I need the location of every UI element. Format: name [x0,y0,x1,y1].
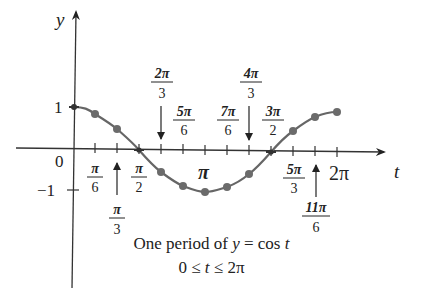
svg-text:7π: 7π [221,104,236,119]
svg-text:π: π [91,161,99,176]
data-point [113,125,121,133]
svg-text:3: 3 [291,181,298,196]
y-tick-label-1: 1 [54,98,63,117]
svg-text:6: 6 [313,220,320,235]
svg-text:6: 6 [181,123,188,138]
y-tick-label-minus-1: −1 [37,181,55,200]
data-point [333,108,341,116]
svg-text:2π: 2π [154,66,170,81]
frac-pi3: π 3 [109,202,125,237]
frac-pi6: π 6 [87,161,103,195]
caption-text: One period of [134,234,233,253]
caption-range-end: ≤ 2π [210,258,245,277]
caption-y: y [232,234,240,253]
svg-text:π: π [113,202,121,217]
svg-text:2: 2 [270,123,277,138]
svg-text:11π: 11π [306,200,327,215]
svg-text:4π: 4π [243,66,259,81]
data-point [179,182,187,190]
data-point [91,110,99,118]
svg-text:5π: 5π [287,162,302,177]
y-axis-label: y [54,9,65,30]
t-axis-label: t [394,161,400,182]
svg-text:3π: 3π [265,104,281,119]
caption-line-2: 0 ≤ t ≤ 2π [0,258,423,278]
origin-label: 0 [55,152,64,171]
data-point [201,188,209,196]
x-axis [16,148,384,152]
data-point [157,168,165,176]
svg-text:5π: 5π [177,104,192,119]
data-point [311,113,319,121]
svg-text:6: 6 [225,123,232,138]
svg-text:π: π [135,161,143,176]
frac-11pi6: 11π 6 [302,200,330,235]
caption-line-1: One period of y = cos t [0,234,423,254]
frac-7pi6: 7π 6 [217,104,239,138]
frac-5pi6: 5π 6 [173,104,195,138]
caption-range-start: 0 ≤ [179,258,205,277]
svg-text:2: 2 [136,180,143,195]
data-point [245,170,253,178]
axis-crossings [69,104,276,155]
svg-text:6: 6 [92,180,99,195]
x-tick-label-pi: π [198,161,210,183]
x-tick-label-2pi: 2π [329,162,349,184]
data-point [289,127,297,135]
frac-4pi3: 4π 3 [240,66,262,101]
data-point [223,183,231,191]
svg-text:3: 3 [248,86,255,101]
cosine-graph-figure: y t 1 0 −1 π 2π π 6 π 3 π 2 2π 3 5π [0,0,423,303]
caption-t: t [285,234,290,253]
frac-5pi3: 5π 3 [283,162,305,196]
caption-eq: = cos [240,234,285,253]
frac-2pi3: 2π 3 [151,66,173,101]
svg-text:3: 3 [159,86,166,101]
data-points [91,108,341,196]
frac-pi2: π 2 [131,161,147,195]
frac-3pi2: 3π 2 [262,104,284,138]
